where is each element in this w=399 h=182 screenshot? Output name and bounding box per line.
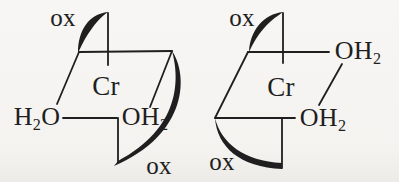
right-oxalate-top-label: ox	[229, 5, 255, 30]
left-metal-label: Cr	[92, 73, 120, 100]
right-water-water-bond	[319, 64, 342, 105]
formula-main: OH	[300, 103, 338, 132]
right-metal-label: Cr	[267, 74, 295, 101]
formula-main: H	[14, 102, 33, 131]
left-plane-top-edge	[79, 51, 172, 52]
formula-main: OH	[122, 102, 160, 131]
formula-subscript: 2	[160, 116, 168, 133]
left-plane-right-edge	[150, 51, 172, 107]
right-aqua-top-label: OH2	[335, 38, 382, 64]
formula-main: OH	[335, 36, 373, 65]
left-oxalate-bottom-label: ox	[146, 153, 172, 178]
left-plane-left-edge	[57, 52, 79, 104]
chemical-structure-figure: ox Cr H2O OH2 ox ox Cr OH2 OH2 ox	[0, 0, 399, 182]
left-aqua-right-label: OH2	[122, 104, 169, 130]
left-oxalate-top-label: ox	[50, 5, 76, 30]
right-aqua-bottom-label: OH2	[300, 105, 347, 131]
formula-main: O	[41, 102, 60, 131]
left-oxalate-top-arc	[78, 12, 108, 53]
formula-subscript: 2	[338, 117, 346, 134]
left-aqua-left-label: H2O	[14, 104, 61, 130]
right-plane-left-edge	[215, 52, 248, 118]
right-oxalate-bottom-label: ox	[209, 149, 235, 174]
formula-subscript: 2	[373, 50, 381, 67]
